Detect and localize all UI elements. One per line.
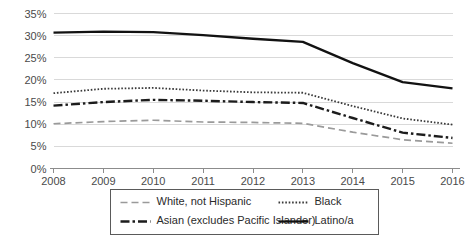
x-axis-tickmarks [54,169,453,173]
series-line-asian [54,100,453,138]
y-axis-tick-label: 5% [31,140,47,152]
y-axis-tick-label: 25% [24,52,46,64]
y-axis-tick-label: 10% [24,118,46,130]
legend-label-black: Black [315,195,342,207]
x-axis-tick-label: 2013 [291,175,315,187]
series-line-black [54,88,453,125]
y-axis-tick-label: 35% [24,8,46,20]
x-axis-tick-label: 2011 [191,175,215,187]
x-axis-tick-label: 2012 [241,175,265,187]
x-axis-tick-label: 2010 [141,175,165,187]
x-axis-tick-labels: 200820092010201120122013201420152016 [41,175,464,187]
y-axis-tick-label: 0% [31,163,47,175]
y-axis-tick-label: 20% [24,74,46,86]
x-axis-tick-label: 2008 [41,175,65,187]
y-axis-tick-label: 30% [24,30,46,42]
legend-label-white: White, not Hispanic [157,195,252,207]
chart-legend: White, not HispanicBlackAsian (excludes … [111,190,379,235]
gridlines [54,14,453,147]
line-chart: 0%5%10%15%20%25%30%35% 20082009201020112… [0,0,466,246]
y-axis-tick-labels: 0%5%10%15%20%25%30%35% [24,8,46,175]
legend-label-latino: Latino/a [315,214,355,226]
y-axis-tick-label: 15% [24,96,46,108]
x-axis-tick-label: 2016 [440,175,464,187]
chart-canvas: 0%5%10%15%20%25%30%35% 20082009201020112… [0,0,466,246]
series-line-white [54,120,453,143]
x-axis-tick-label: 2015 [390,175,414,187]
x-axis-tick-label: 2009 [91,175,115,187]
data-series-group [54,32,453,144]
x-axis-tick-label: 2014 [341,175,365,187]
